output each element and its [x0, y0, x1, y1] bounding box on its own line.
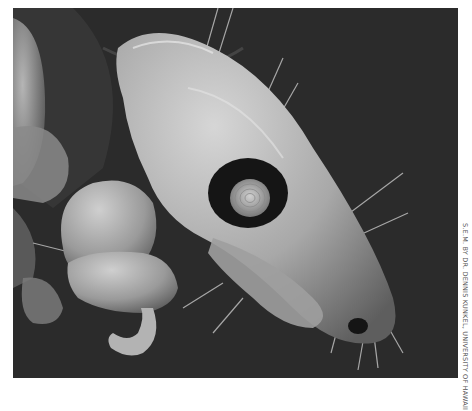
photo-credit: S.E.M. BY DR. DENNIS KUNKEL, UNIVERSITY … — [458, 244, 472, 390]
sem-micrograph — [13, 8, 458, 378]
eye-lens — [230, 179, 270, 217]
photo-credit-text: S.E.M. BY DR. DENNIS KUNKEL, UNIVERSITY … — [461, 223, 469, 410]
micrograph-illustration — [13, 8, 458, 378]
